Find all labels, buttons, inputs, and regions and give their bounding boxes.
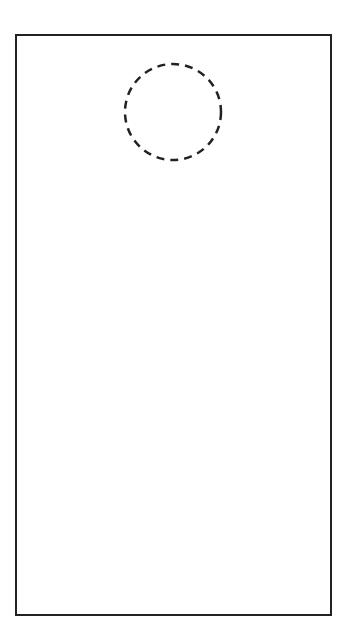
hanger-hole-cutout: [0, 0, 342, 639]
dashed-circle: [125, 64, 221, 160]
